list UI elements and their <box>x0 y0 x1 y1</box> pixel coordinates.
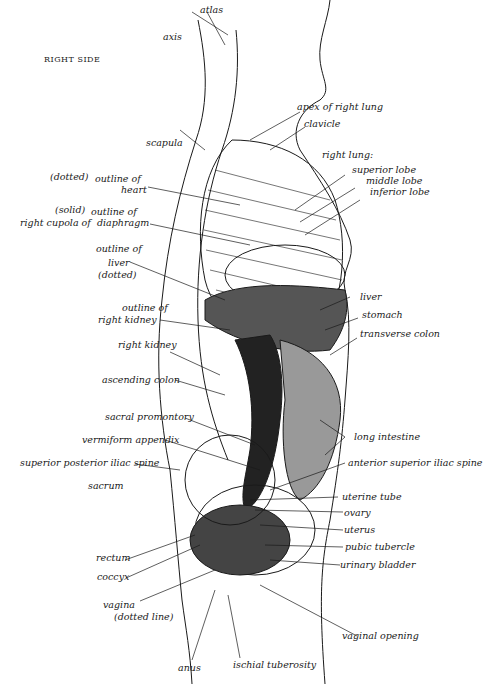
label-diaphragm-note: (solid) <box>55 205 85 215</box>
label-inferior-lobe: inferior lobe <box>370 187 430 197</box>
label-sacrum: sacrum <box>88 481 124 491</box>
label-sacral-promontory: sacral promontory <box>105 412 194 422</box>
label-kidney-outline-2: right kidney <box>98 315 157 325</box>
label-sup-post-iliac-spine: superior posterior iliac spine <box>20 458 159 468</box>
label-vaginal-opening: vaginal opening <box>342 631 419 641</box>
label-kidney-outline-1: outline of <box>122 303 168 313</box>
label-transverse-colon: transverse colon <box>360 329 440 339</box>
back-outline <box>159 20 206 684</box>
label-superior-lobe: superior lobe <box>352 165 416 175</box>
long-intestine <box>280 340 341 500</box>
label-ischial-tuberosity: ischial tuberosity <box>233 660 316 670</box>
label-vermiform-appendix: vermiform appendix <box>82 435 179 445</box>
label-pubic-tubercle: pubic tubercle <box>345 542 415 552</box>
label-vagina-1: vagina <box>103 600 135 610</box>
label-coccyx: coccyx <box>97 572 129 582</box>
label-liver-outline-1: outline of <box>96 244 142 254</box>
label-diaphragm-left: right cupola of <box>20 218 91 228</box>
label-uterus: uterus <box>344 525 375 535</box>
label-uterine-tube: uterine tube <box>342 492 402 502</box>
label-heart-note: (dotted) <box>50 172 89 182</box>
label-right-kidney: right kidney <box>118 340 177 350</box>
label-right-lung: right lung: <box>322 150 373 160</box>
label-heart-1: outline of <box>95 174 141 184</box>
label-apex-right-lung: apex of right lung <box>297 102 383 112</box>
label-long-intestine: long intestine <box>354 432 420 442</box>
label-anus: anus <box>178 663 201 673</box>
label-diaphragm-1: outline of <box>91 207 137 217</box>
label-middle-lobe: middle lobe <box>366 176 422 186</box>
label-diaphragm-2: diaphragm <box>97 218 149 228</box>
liver-mass <box>205 286 347 352</box>
label-ovary: ovary <box>344 508 371 518</box>
label-liver-outline-3: (dotted) <box>98 270 137 280</box>
label-ascending-colon: ascending colon <box>102 375 180 385</box>
label-clavicle: clavicle <box>304 119 340 129</box>
label-ant-sup-iliac-spine: anterior superior iliac spine <box>348 458 483 468</box>
pelvic-organs <box>190 505 290 575</box>
side-label: RIGHT SIDE <box>44 56 100 64</box>
label-axis: axis <box>163 32 182 42</box>
spine <box>198 30 238 460</box>
label-scapula: scapula <box>146 138 183 148</box>
label-liver: liver <box>360 292 382 302</box>
label-rectum: rectum <box>96 553 130 563</box>
label-urinary-bladder: urinary bladder <box>340 560 416 570</box>
label-stomach: stomach <box>362 310 403 320</box>
label-liver-outline-2: liver <box>108 258 130 268</box>
label-vagina-2: (dotted line) <box>114 612 173 622</box>
label-heart-2: heart <box>121 185 147 195</box>
label-atlas: atlas <box>200 5 223 15</box>
